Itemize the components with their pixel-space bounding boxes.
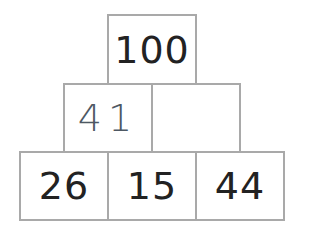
pyramid-cell-bottom-right: 44 — [195, 151, 285, 221]
pyramid-cell-bottom-left: 26 — [19, 151, 109, 221]
number-pyramid: 100 41 26 15 44 — [0, 0, 311, 230]
pyramid-cell-top: 100 — [107, 14, 197, 85]
pyramid-cell-bottom-middle: 15 — [107, 151, 197, 221]
pyramid-cell-middle-right-empty[interactable] — [151, 83, 241, 153]
pyramid-cell-middle-left[interactable]: 41 — [63, 83, 153, 153]
